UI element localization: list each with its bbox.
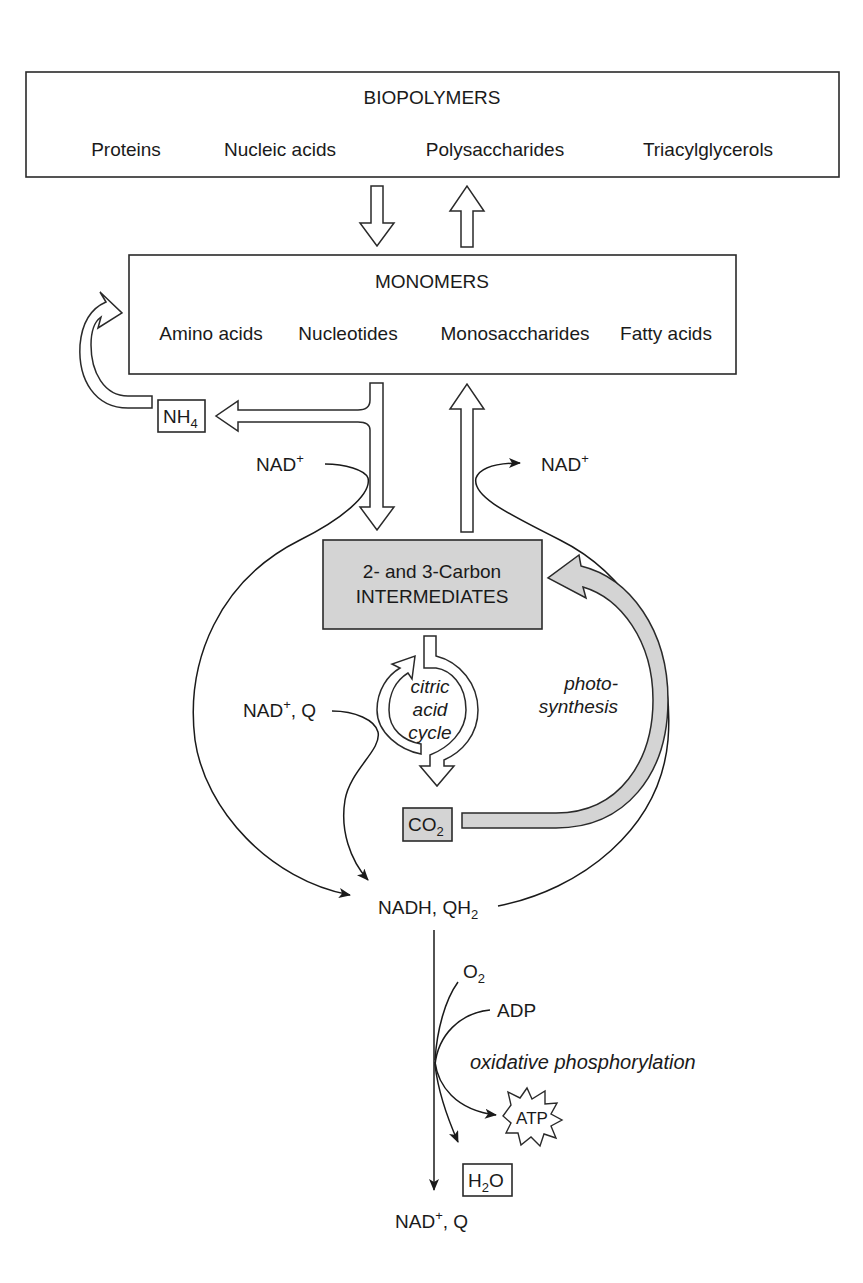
svg-text:O2: O2 — [463, 961, 485, 986]
co2-label: CO — [408, 814, 437, 835]
photosynthesis-line2: synthesis — [539, 696, 619, 717]
intermediates-line1: 2- and 3-Carbon — [363, 561, 501, 582]
degradation-arrow-icon — [360, 186, 394, 246]
svg-text:NAD+: NAD+ — [541, 451, 589, 475]
biopolymers-title: BIOPOLYMERS — [364, 87, 501, 108]
biosynthesis-arrow-icon — [450, 384, 484, 532]
nadq-in-label: NAD — [243, 700, 283, 721]
intermediates-line2: INTERMEDIATES — [356, 586, 509, 607]
monomer-nucleotides: Nucleotides — [298, 323, 397, 344]
biopolymer-nucleic-acids: Nucleic acids — [224, 139, 336, 160]
nadq-out-label: NAD — [395, 1211, 435, 1232]
citric-cycle-line2: acid — [413, 699, 449, 720]
metabolism-diagram: BIOPOLYMERS Proteins Nucleic acids Polys… — [0, 0, 863, 1283]
oxidative-phosphorylation-label: oxidative phosphorylation — [470, 1051, 696, 1073]
monomer-fatty-acids: Fatty acids — [620, 323, 712, 344]
oxidation-curve-left — [193, 464, 368, 895]
nadq-reduction-curve — [332, 711, 378, 880]
synthesis-arrow-icon — [450, 186, 484, 247]
svg-text:NAD+, Q: NAD+, Q — [395, 1208, 468, 1232]
amino-deamination-arrow-icon — [216, 383, 394, 530]
monomer-amino-acids: Amino acids — [159, 323, 263, 344]
monomers-title: MONOMERS — [375, 271, 489, 292]
co2-box: CO2 — [403, 808, 452, 841]
svg-text:NAD+: NAD+ — [256, 451, 304, 475]
biopolymer-proteins: Proteins — [91, 139, 161, 160]
biopolymer-triacylglycerols: Triacylglycerols — [643, 139, 773, 160]
atp-label: ATP — [516, 1109, 548, 1128]
biopolymer-polysaccharides: Polysaccharides — [426, 139, 564, 160]
photosynthesis-line1: photo- — [563, 673, 618, 694]
nh4-subscript: 4 — [190, 416, 197, 431]
citric-cycle-line1: citric — [410, 676, 450, 697]
nad-right-label: NAD — [541, 454, 581, 475]
nh4-label: NH — [163, 406, 190, 427]
monomers-box: MONOMERS Amino acids Nucleotides Monosac… — [129, 255, 736, 374]
atp-starburst: ATP — [503, 1088, 562, 1146]
nadh-qh2-label: NADH, QH — [378, 897, 471, 918]
o2-label: O — [463, 961, 478, 982]
h2o-label: H — [468, 1170, 482, 1191]
svg-text:NAD+, Q: NAD+, Q — [243, 697, 316, 721]
nad-left-label: NAD — [256, 454, 296, 475]
svg-text:NADH, QH2: NADH, QH2 — [378, 897, 478, 922]
intermediates-box: 2- and 3-Carbon INTERMEDIATES — [323, 540, 542, 629]
nh4-box: NH4 — [158, 400, 205, 432]
h2o-box: H2O — [463, 1164, 512, 1196]
adp-label: ADP — [497, 1000, 536, 1021]
citric-cycle-line3: cycle — [408, 722, 451, 743]
monomer-monosaccharides: Monosaccharides — [441, 323, 590, 344]
biopolymers-box: BIOPOLYMERS Proteins Nucleic acids Polys… — [26, 72, 839, 177]
